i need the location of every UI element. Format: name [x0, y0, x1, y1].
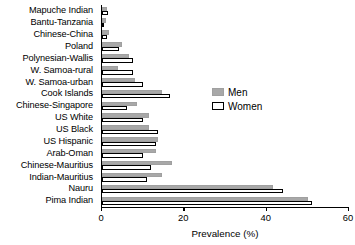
bar-row [102, 171, 349, 183]
bar-row [102, 112, 349, 124]
chart-figure: Mapuche IndianBantu-TanzaniaChinese-Chin… [0, 0, 355, 245]
x-axis-tick-label: 20 [178, 212, 188, 223]
legend-entry-women: Women [212, 99, 302, 113]
bar-row [102, 53, 349, 65]
bar-women [102, 106, 127, 110]
x-axis-tick-label: 40 [260, 212, 270, 223]
bar-women [102, 165, 151, 169]
x-axis-tick [183, 207, 184, 211]
bar-women [102, 189, 283, 193]
legend-label-women: Women [228, 101, 262, 112]
bar-row [102, 17, 349, 29]
y-axis-label: US Black [0, 124, 97, 136]
y-axis-label: Arab-Oman [0, 148, 97, 160]
y-axis-label: Bantu-Tanzania [0, 17, 97, 29]
bar-women [102, 118, 143, 122]
bar-women [102, 82, 143, 86]
bar-women [102, 35, 107, 39]
y-axis-label: Indian-Mauritius [0, 171, 97, 183]
legend-label-men: Men [228, 87, 247, 98]
y-axis-label: Chinese-Mauritius [0, 159, 97, 171]
y-axis-label: Cook Islands [0, 88, 97, 100]
bar-women [102, 70, 133, 74]
x-axis-tick [101, 207, 102, 211]
bar-row [102, 124, 349, 136]
bar-row [102, 159, 349, 171]
bar-women [102, 201, 312, 205]
bar-row [102, 5, 349, 17]
y-axis-label: Pima Indian [0, 195, 97, 207]
bar-row [102, 136, 349, 148]
legend-swatch-men-icon [212, 88, 224, 96]
bar-row [102, 29, 349, 41]
x-axis-tick-label: 60 [343, 212, 353, 223]
y-axis-label: Mapuche Indian [0, 5, 97, 17]
bar-row [102, 148, 349, 160]
legend-swatch-women-icon [212, 102, 224, 110]
bar-row [102, 195, 349, 207]
bar-women [102, 47, 119, 51]
y-axis-label: US White [0, 112, 97, 124]
y-axis-label: US Hispanic [0, 136, 97, 148]
bar-row [102, 183, 349, 195]
bar-row [102, 41, 349, 53]
y-axis-label: Polynesian-Wallis [0, 53, 97, 65]
bar-row [102, 64, 349, 76]
y-axis-category-labels: Mapuche IndianBantu-TanzaniaChinese-Chin… [0, 5, 97, 207]
bar-women [102, 58, 133, 62]
legend-entry-men: Men [212, 85, 302, 99]
x-axis-tick [266, 207, 267, 211]
chart-legend: Men Women [212, 85, 302, 113]
y-axis-label: Chinese-Singapore [0, 100, 97, 112]
x-axis-tick-label: 0 [98, 212, 103, 223]
bar-women [102, 94, 170, 98]
bar-women [102, 153, 143, 157]
bar-women [102, 23, 104, 27]
y-axis-label: Nauru [0, 183, 97, 195]
x-axis-title: Prevalence (%) [101, 228, 349, 239]
bar-women [102, 142, 156, 146]
y-axis-label: Poland [0, 41, 97, 53]
y-axis-label: W. Samoa-rural [0, 64, 97, 76]
bar-women [102, 11, 108, 15]
x-axis-tick [348, 207, 349, 211]
bar-women [102, 130, 158, 134]
bar-women [102, 177, 147, 181]
y-axis-label: Chinese-China [0, 29, 97, 41]
y-axis-label: W. Samoa-urban [0, 76, 97, 88]
